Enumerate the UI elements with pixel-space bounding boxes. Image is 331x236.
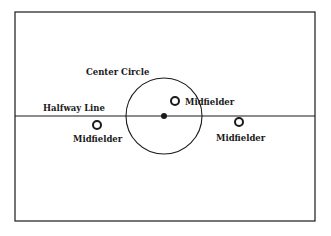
player-label: Midfielder [185,97,235,107]
halfway-line-label: Halfway Line [43,103,106,113]
player-label: Midfielder [216,133,266,143]
center-spot [161,113,167,119]
player-midfielder-3: Midfielder [216,118,266,143]
player-marker-icon [235,118,243,126]
player-marker-icon [93,121,101,129]
player-marker-icon [171,97,179,105]
soccer-field-diagram: Center Circle Halfway Line Midfielder Mi… [0,0,331,236]
player-midfielder-2: Midfielder [73,121,123,144]
player-label: Midfielder [73,134,123,144]
player-midfielder-1: Midfielder [171,97,235,107]
center-circle-label: Center Circle [86,67,150,77]
